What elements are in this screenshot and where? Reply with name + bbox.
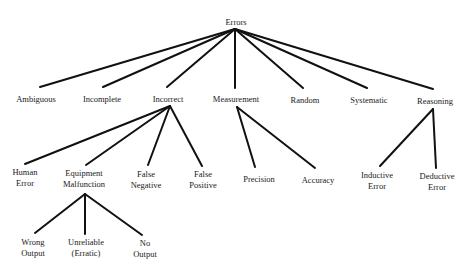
edge-errors-reasoning (235, 29, 433, 89)
node-errors: Errors (225, 17, 246, 28)
edge-errors-random (235, 29, 303, 88)
node-false-negative: False Negative (131, 169, 162, 191)
node-label: Ambiguous (16, 94, 56, 105)
node-label: Errors (225, 17, 246, 28)
edge-errors-incorrect (167, 29, 235, 87)
node-label-line2: Malfunction (63, 179, 105, 190)
node-random: Random (291, 95, 320, 106)
node-label-line1: Equipment (63, 168, 105, 179)
node-label-line2: Negative (131, 180, 162, 191)
node-human-error: Human Error (12, 167, 37, 189)
node-label: Precision (243, 174, 275, 185)
edge-errors-ambiguous (40, 29, 235, 87)
edge-errors-incomplete (103, 29, 235, 87)
node-label-line1: Human (12, 167, 37, 178)
node-unreliable-erratic: Unreliable (Erratic) (68, 237, 104, 259)
node-systematic: Systematic (350, 95, 387, 106)
node-label-line1: False (131, 169, 162, 180)
node-label-line1: No (133, 238, 157, 249)
node-label-line2: (Erratic) (68, 248, 104, 259)
edge-equipment-wrong-output (35, 194, 85, 233)
node-precision: Precision (243, 174, 275, 185)
node-label: Incomplete (83, 94, 121, 105)
edge-reasoning-deductive (433, 109, 436, 168)
node-false-positive: False Positive (189, 169, 216, 191)
node-label-line1: Inductive (361, 170, 393, 181)
node-no-output: No Output (133, 238, 157, 260)
node-label-line2: Output (133, 249, 157, 260)
node-label: Incorrect (153, 94, 184, 105)
node-label-line2: Error (12, 178, 37, 189)
edge-measurement-accuracy (237, 107, 315, 168)
node-label-line2: Error (361, 181, 393, 192)
node-label-line1: False (189, 169, 216, 180)
error-taxonomy-diagram: Errors Ambiguous Incomplete Incorrect Me… (0, 0, 473, 276)
node-label: Systematic (350, 95, 387, 106)
node-ambiguous: Ambiguous (16, 94, 56, 105)
node-accuracy: Accuracy (302, 175, 335, 186)
connector-lines (0, 0, 473, 276)
node-equipment-malfunction: Equipment Malfunction (63, 168, 105, 190)
node-inductive-error: Inductive Error (361, 170, 393, 192)
node-label: Random (291, 95, 320, 106)
node-incorrect: Incorrect (153, 94, 184, 105)
node-incomplete: Incomplete (83, 94, 121, 105)
node-label-line2: Error (420, 182, 455, 193)
node-label-line1: Deductive (420, 171, 455, 182)
node-label-line2: Positive (189, 180, 216, 191)
node-label: Measurement (213, 94, 259, 105)
node-label: Accuracy (302, 175, 335, 186)
node-deductive-error: Deductive Error (420, 171, 455, 193)
edge-incorrect-false-positive (170, 106, 202, 166)
node-label-line2: Output (21, 248, 45, 259)
node-wrong-output: Wrong Output (21, 237, 45, 259)
edge-equipment-no-output (85, 194, 142, 235)
edge-reasoning-inductive (380, 109, 433, 166)
node-label-line1: Wrong (21, 237, 45, 248)
edge-errors-systematic (235, 29, 367, 88)
node-label: Reasoning (417, 96, 453, 107)
edge-measurement-precision (237, 107, 255, 167)
edge-incorrect-human-error (25, 106, 170, 164)
node-label-line1: Unreliable (68, 237, 104, 248)
node-measurement: Measurement (213, 94, 259, 105)
node-reasoning: Reasoning (417, 96, 453, 107)
